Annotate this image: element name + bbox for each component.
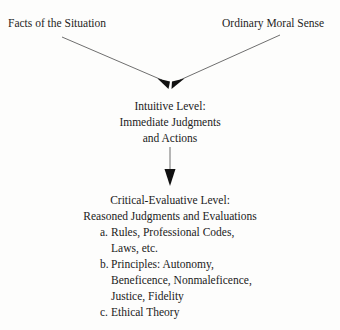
ethics-two-level-diagram: Facts of the Situation Ordinary Moral Se… bbox=[0, 0, 340, 330]
moral-sense-to-intuitive-line bbox=[180, 35, 280, 80]
intuitive-level-line-2: Immediate Judgments bbox=[0, 114, 340, 130]
list-item-text: Rules, Professional Codes, bbox=[111, 226, 234, 238]
list-item-continuation: Beneficence, Nonmaleficence, bbox=[111, 272, 300, 288]
list-item-continuation: Laws, etc. bbox=[111, 240, 300, 256]
list-item: c. Ethical Theory bbox=[100, 304, 300, 320]
critical-level-heading: Critical-Evaluative Level: bbox=[0, 192, 340, 208]
intuitive-level-block: Intuitive Level: Immediate Judgments and… bbox=[0, 98, 340, 146]
list-item-marker: b. bbox=[100, 256, 109, 272]
intuitive-level-heading: Intuitive Level: bbox=[0, 98, 340, 114]
critical-level-list: a. Rules, Professional Codes, Laws, etc.… bbox=[100, 224, 300, 320]
source-label-facts: Facts of the Situation bbox=[8, 15, 106, 31]
list-item-marker: c. bbox=[100, 304, 108, 320]
facts-to-intuitive-line bbox=[62, 37, 162, 80]
list-item: a. Rules, Professional Codes, Laws, etc. bbox=[100, 224, 300, 256]
moral-sense-to-intuitive-arrowhead bbox=[172, 79, 185, 90]
list-item-marker: a. bbox=[100, 224, 108, 240]
list-item-continuation-2: Justice, Fidelity bbox=[111, 288, 300, 304]
intuitive-level-line-3: and Actions bbox=[0, 130, 340, 146]
facts-to-intuitive-arrowhead bbox=[158, 79, 171, 90]
critical-level-line-2: Reasoned Judgments and Evaluations bbox=[0, 208, 340, 224]
list-item-text: Ethical Theory bbox=[111, 306, 179, 318]
critical-level-block: Critical-Evaluative Level: Reasoned Judg… bbox=[0, 192, 340, 320]
list-item-text: Principles: Autonomy, bbox=[111, 258, 214, 270]
list-item: b. Principles: Autonomy, Beneficence, No… bbox=[100, 256, 300, 304]
intuitive-to-critical-arrowhead bbox=[165, 169, 176, 186]
source-label-moral-sense: Ordinary Moral Sense bbox=[222, 15, 324, 31]
